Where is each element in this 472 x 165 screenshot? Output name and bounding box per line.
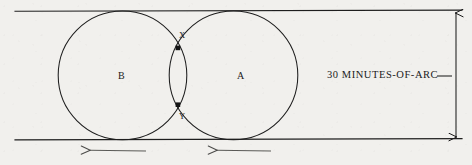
- point-y-label: Y: [179, 112, 185, 121]
- motion-arrow-right: [217, 150, 271, 151]
- point-y-marker: [176, 102, 181, 107]
- motion-arrows-group: [90, 150, 271, 151]
- circle-b-label: B: [118, 71, 125, 81]
- figure-canvas: B A X Y 30 MINUTES-OF-ARC: [0, 0, 472, 165]
- intersection-points-group: [176, 46, 181, 107]
- circle-a-label: A: [237, 71, 244, 81]
- circle-a: [169, 11, 298, 140]
- dimension-label: 30 MINUTES-OF-ARC: [327, 70, 438, 81]
- diagram-svg: [0, 0, 472, 165]
- point-x-label: X: [179, 31, 185, 40]
- circles-group: [58, 11, 298, 140]
- point-x-marker: [176, 46, 181, 51]
- motion-arrow-left: [90, 150, 146, 151]
